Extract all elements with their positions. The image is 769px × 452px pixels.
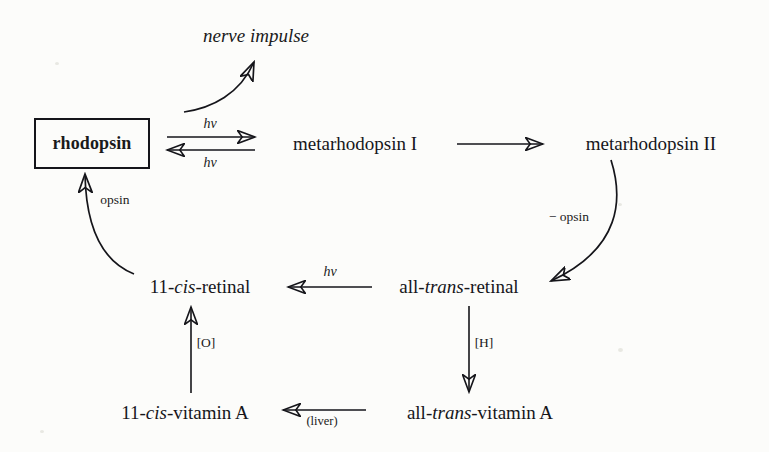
trans-retinal-suffix: -retinal [464,276,519,297]
hv-forward-text: hv [203,116,216,131]
trans-retinal-italic: trans [425,276,464,297]
scan-speck [55,62,59,65]
hv-isomerize-text: hv [323,264,336,279]
trans-retinal-prefix: all- [399,276,424,297]
node-all-trans-retinal: all-trans-retinal [399,277,518,296]
nerve-impulse-label: nerve impulse [203,25,309,46]
node-11-cis-retinal: 11-cis-retinal [150,277,251,296]
edge-label-reduction: [H] [475,336,494,350]
metarhodopsin-1-label: metarhodopsin I [293,133,417,154]
opsin-text: opsin [100,192,129,207]
hv-reverse-text: hv [203,155,216,170]
node-metarhodopsin-2: metarhodopsin II [586,134,716,153]
oxidation-text: [O] [197,335,216,350]
diagram-canvas: nerve impulse rhodopsin metarhodopsin I … [0,0,769,452]
reduction-text: [H] [475,335,494,350]
edge-label-oxidation: [O] [197,336,216,350]
scan-speck [618,348,623,352]
metarhodopsin-2-label: metarhodopsin II [586,133,716,154]
edge-label-opsin: opsin [100,193,129,207]
edge-label-hv-forward: hv [203,117,216,131]
cis-retinal-italic: cis [174,276,195,297]
arrow-cis-retinal-to-rhodopsin [85,174,134,274]
trans-vitamin-suffix: -vitamin A [471,402,553,423]
node-metarhodopsin-1: metarhodopsin I [293,134,417,153]
edge-label-minus-opsin: − opsin [549,210,589,224]
cis-vitamin-prefix: 11- [121,402,146,423]
node-nerve-impulse: nerve impulse [203,25,309,47]
cis-vitamin-suffix: -vitamin A [167,402,249,423]
node-rhodopsin-box: rhodopsin [34,118,150,169]
rhodopsin-label: rhodopsin [53,133,132,154]
minus-opsin-text: − opsin [549,209,589,224]
cis-retinal-prefix: 11- [150,276,175,297]
node-11-cis-vitamin-a: 11-cis-vitamin A [121,403,249,422]
edge-label-liver: (liver) [306,415,337,428]
cis-retinal-suffix: -retinal [195,276,250,297]
cis-vitamin-italic: cis [146,402,167,423]
trans-vitamin-prefix: all- [407,402,432,423]
edge-label-hv-isomerize: hv [323,265,336,279]
scan-speck [618,203,622,206]
edge-label-hv-reverse: hv [203,156,216,170]
scan-speck [40,430,44,433]
liver-text: (liver) [306,414,337,428]
node-all-trans-vitamin-a: all-trans-vitamin A [407,403,553,422]
arrow-layer [0,0,769,452]
arrow-nerve-impulse [184,62,254,112]
trans-vitamin-italic: trans [432,402,471,423]
